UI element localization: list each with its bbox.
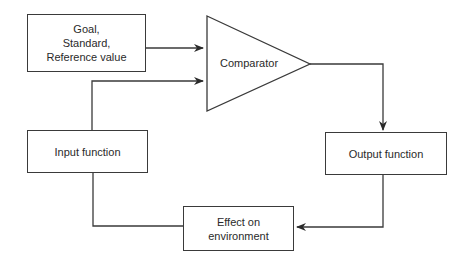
output-function-box: Output function [325, 132, 447, 175]
arrow-output-to-effect [297, 174, 383, 227]
input-function-label: Input function [54, 145, 120, 159]
goal-line-2: Standard, [46, 36, 126, 50]
effect-box: Effect on environment [183, 206, 294, 251]
effect-line-1: Effect on [208, 215, 269, 229]
comparator-label: Comparator [220, 57, 278, 69]
goal-box: Goal, Standard, Reference value [27, 14, 146, 72]
goal-line-1: Goal, [46, 22, 126, 36]
output-function-label: Output function [349, 147, 424, 161]
input-function-box: Input function [27, 130, 148, 173]
line-effect-to-input [93, 172, 183, 226]
effect-line-2: environment [208, 229, 269, 243]
goal-line-3: Reference value [46, 50, 126, 64]
arrow-input-to-comparator [92, 81, 203, 130]
arrow-comparator-to-output [310, 64, 383, 130]
